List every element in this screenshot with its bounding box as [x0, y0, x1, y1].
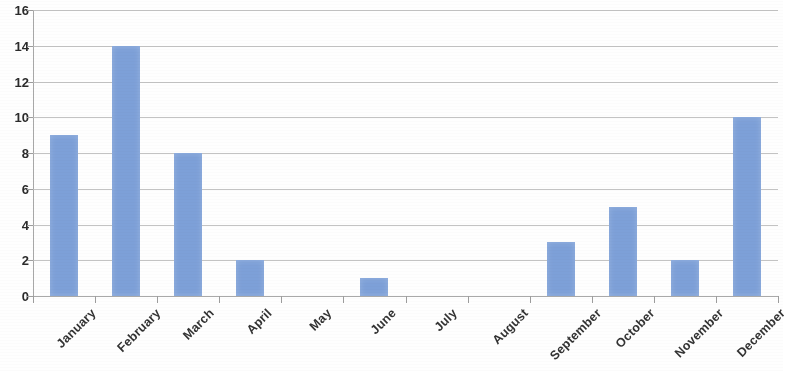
bar[interactable]: [112, 46, 140, 296]
x-label-slot: September: [530, 300, 592, 371]
bar[interactable]: [50, 135, 78, 296]
plot-area: [33, 10, 778, 296]
bar[interactable]: [174, 153, 202, 296]
x-label-may: May: [307, 306, 335, 334]
bar-slot: [530, 10, 592, 296]
bar[interactable]: [360, 278, 388, 296]
bar-slot: [95, 10, 157, 296]
x-label-april: April: [244, 306, 275, 337]
x-label-slot: March: [157, 300, 219, 371]
bar-slot: [157, 10, 219, 296]
bar-slot: [716, 10, 778, 296]
bar[interactable]: [733, 117, 761, 296]
bar-slot: [219, 10, 281, 296]
x-tick-mark: [778, 296, 779, 303]
bar-slot: [406, 10, 468, 296]
x-label-january: January: [54, 306, 99, 351]
x-label-slot: June: [343, 300, 405, 371]
bar[interactable]: [236, 260, 264, 296]
bar[interactable]: [547, 242, 575, 296]
bar[interactable]: [609, 207, 637, 296]
bar-slot: [281, 10, 343, 296]
x-label-slot: January: [33, 300, 95, 371]
x-label-slot: July: [406, 300, 468, 371]
x-label-slot: February: [95, 300, 157, 371]
x-label-slot: April: [219, 300, 281, 371]
x-label-august: August: [489, 306, 530, 347]
x-label-slot: December: [716, 300, 778, 371]
x-label-slot: October: [592, 300, 654, 371]
bar-slot: [654, 10, 716, 296]
x-label-june: June: [368, 306, 399, 337]
x-label-october: October: [613, 306, 658, 351]
x-label-december: December: [734, 306, 788, 360]
x-label-slot: August: [468, 300, 530, 371]
bar-slot: [33, 10, 95, 296]
x-label-slot: May: [281, 300, 343, 371]
x-label-slot: November: [654, 300, 716, 371]
x-axis-category-labels: JanuaryFebruaryMarchAprilMayJuneJulyAugu…: [33, 300, 778, 371]
bar-slot: [343, 10, 405, 296]
x-label-july: July: [431, 306, 459, 334]
x-label-march: March: [180, 306, 217, 343]
bar[interactable]: [671, 260, 699, 296]
bar-slot: [468, 10, 530, 296]
bar-slot: [592, 10, 654, 296]
